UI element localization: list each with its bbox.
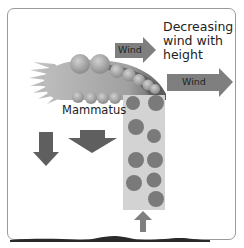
downdraft-arrow-narrow: [33, 132, 59, 166]
updraft-arrow: [134, 211, 152, 232]
wind-label-lower: Wind: [182, 77, 206, 87]
ground: [10, 236, 210, 242]
mammatus-label: Mammatus: [62, 104, 126, 116]
annotation-decreasing-wind: Decreasing wind with height: [163, 20, 243, 62]
downdraft-arrow-wide: [68, 130, 117, 153]
precipitation-column: [123, 95, 165, 210]
wind-label-upper: Wind: [118, 45, 142, 55]
